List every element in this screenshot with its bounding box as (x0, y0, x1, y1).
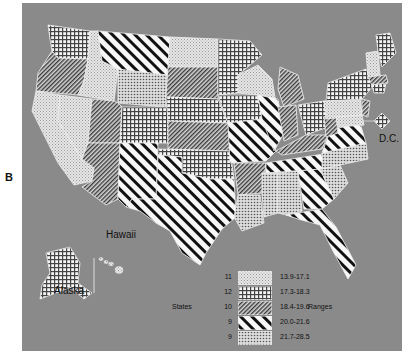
legend-range: 21.7-28.5 (280, 333, 310, 340)
hawaii-label: Hawaii (106, 229, 136, 240)
state-new-jersey (362, 99, 370, 117)
state-florida (286, 209, 356, 279)
legend-swatch-fine-dots (238, 271, 272, 285)
legend-swatch-stipple (238, 331, 272, 345)
map-panel: D.C. Hawaii Alaska 11 13.9-17.1 12 17.3-… (22, 3, 402, 351)
alaska-label: Alaska (54, 285, 84, 296)
legend: 11 13.9-17.1 12 17.3-18.3 10 18.4-19.6 9… (218, 271, 398, 349)
state-michigan (278, 67, 304, 107)
legend-count: 9 (218, 318, 232, 325)
legend-states-label: States (172, 303, 192, 310)
state-utah (88, 99, 122, 143)
state-vermont-nh (366, 51, 380, 77)
state-connecticut-ri (372, 83, 386, 93)
dc-label: D.C. (379, 133, 399, 144)
legend-count: 12 (218, 288, 232, 295)
state-wyoming (118, 69, 168, 107)
legend-ranges-label: Ranges (308, 303, 332, 310)
legend-swatch-dense-diagonal (238, 301, 272, 315)
state-alabama (278, 171, 302, 215)
state-south-dakota (166, 67, 218, 99)
legend-range: 17.3-18.3 (280, 288, 310, 295)
state-arkansas (234, 163, 266, 195)
state-mississippi (262, 173, 278, 217)
legend-range: 18.4-19.6 (280, 303, 310, 310)
state-dc-inset (374, 113, 390, 129)
state-maryland (336, 115, 364, 127)
state-north-dakota (168, 37, 218, 67)
legend-count: 10 (218, 303, 232, 310)
state-ohio (298, 101, 328, 135)
state-new-york (326, 69, 374, 101)
legend-swatch-bold-stripes (238, 316, 272, 330)
state-louisiana (234, 195, 264, 231)
legend-swatch-grid (238, 286, 272, 300)
legend-count: 9 (218, 333, 232, 340)
panel-label: B (5, 171, 13, 183)
state-colorado (120, 107, 168, 143)
state-kansas (168, 121, 230, 151)
state-nebraska (166, 97, 228, 123)
state-hawaii (99, 258, 123, 274)
legend-range: 13.9-17.1 (280, 273, 310, 280)
legend-range: 20.0-21.6 (280, 318, 310, 325)
state-new-mexico (118, 143, 158, 207)
legend-count: 11 (218, 273, 232, 280)
